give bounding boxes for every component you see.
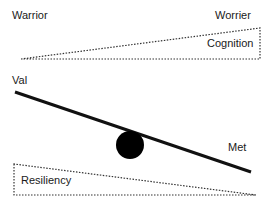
diagram: Warrior Worrier Cognition Val Met Resili…	[0, 0, 268, 204]
met-label: Met	[228, 142, 246, 153]
resiliency-label: Resiliency	[21, 175, 71, 186]
cognition-label: Cognition	[207, 38, 253, 49]
val-label: Val	[12, 75, 27, 86]
fulcrum-ball	[116, 131, 144, 159]
warrior-label: Warrior	[12, 10, 48, 21]
worrier-label: Worrier	[215, 10, 251, 21]
